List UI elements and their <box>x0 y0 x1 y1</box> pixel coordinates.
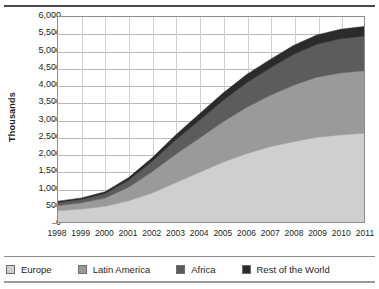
legend-swatch-icon <box>176 265 185 274</box>
legend-bottom-divider <box>4 281 375 283</box>
x-tick-label: 2011 <box>350 228 379 238</box>
legend-swatch-icon <box>242 265 251 274</box>
legend-label: Europe <box>21 264 52 275</box>
plot-area <box>57 16 365 223</box>
legend-label: Latin America <box>93 264 151 275</box>
legend-item[interactable]: Rest of the World <box>242 264 330 275</box>
legend-swatch-icon <box>6 265 15 274</box>
legend-label: Rest of the World <box>257 264 330 275</box>
legend-item[interactable]: Latin America <box>78 264 151 275</box>
y-tick-mark <box>52 223 57 224</box>
top-divider <box>4 5 375 7</box>
legend-label: Africa <box>191 264 215 275</box>
area-series-group <box>58 17 364 222</box>
stacked-area-chart-figure: Thousands 05001,0001,5002,0002,5003,0003… <box>0 0 379 289</box>
legend-item[interactable]: Europe <box>6 264 52 275</box>
legend-top-divider <box>4 256 375 257</box>
legend-item[interactable]: Africa <box>176 264 215 275</box>
legend-swatch-icon <box>78 265 87 274</box>
chart-legend: EuropeLatin AmericaAfricaRest of the Wor… <box>6 260 373 278</box>
